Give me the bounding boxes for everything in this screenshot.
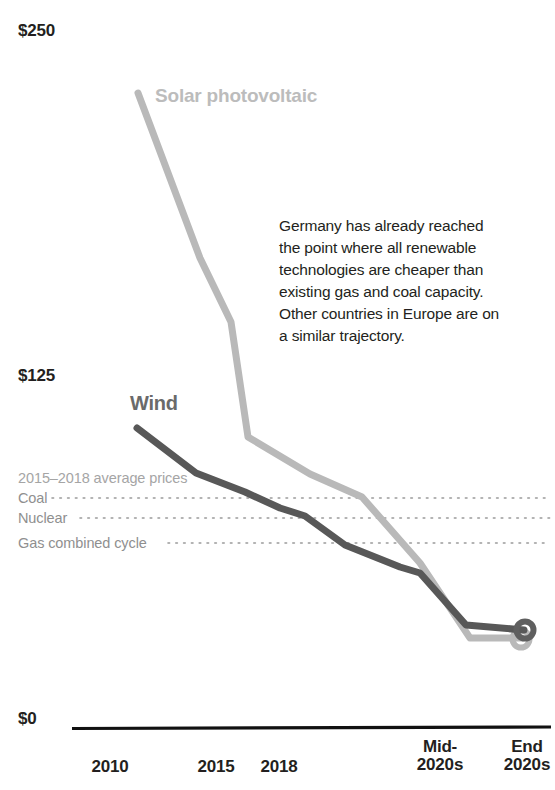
x-axis-label-end-2020s: End 2020s [489,738,555,775]
benchmark-label-nuclear: Nuclear [18,510,67,526]
y-axis-label-125: $125 [18,366,55,386]
x-axis-label-2018: 2018 [241,758,317,776]
series-label-solar-photovoltaic: Solar photovoltaic [155,85,317,107]
benchmark-label-coal: Coal [18,490,47,506]
benchmark-heading: 2015–2018 average prices [18,470,187,486]
chart-plot-area [0,0,555,790]
chart-container: $250 $125 $0 2010 2015 2018 Mid- 2020s E… [0,0,555,790]
series-label-wind: Wind [130,392,178,415]
y-axis-label-250: $250 [18,21,55,41]
y-axis-label-0: $0 [18,709,37,729]
chart-annotation-text: Germany has already reached the point wh… [279,215,507,347]
series-line-wind [137,428,524,630]
x-axis-line [72,727,551,729]
x-axis-label-mid-2020s: Mid- 2020s [402,738,478,775]
series-line-solar [138,93,522,638]
benchmark-label-gas-combined-cycle: Gas combined cycle [18,535,147,551]
x-axis-label-2010: 2010 [72,758,148,776]
